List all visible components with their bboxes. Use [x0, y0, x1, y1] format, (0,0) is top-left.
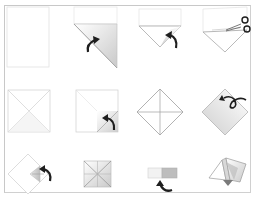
step-9-fold-corners	[8, 154, 50, 194]
step-1-blank-square	[7, 7, 49, 67]
step-2-fold-diagonal	[74, 7, 117, 68]
step-3-folded-triangle	[139, 9, 181, 48]
step-8-turn-over	[202, 89, 248, 135]
step-12-fortune-teller	[209, 158, 246, 186]
step-5-creased-square	[8, 90, 50, 132]
origami-diagram	[0, 0, 256, 199]
step-11-fold-half	[148, 168, 177, 191]
step-7-creased-diamond	[137, 89, 183, 135]
step-10-small-creased-square	[84, 161, 111, 187]
step-6-fold-corner	[76, 90, 118, 132]
step-4-cut-strip	[203, 7, 250, 52]
curved-arrow-icon	[156, 180, 172, 191]
